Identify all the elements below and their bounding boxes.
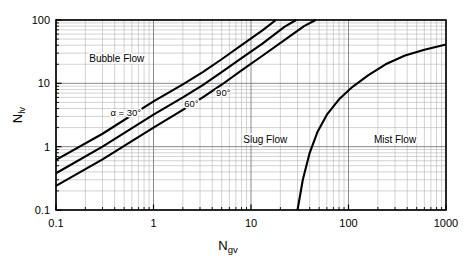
x-tick-label: 100 (339, 217, 357, 229)
annotation-angle-90: 90° (216, 87, 231, 98)
annotation-bubble-flow: Bubble Flow (89, 53, 145, 64)
annotation-mist-flow: Mist Flow (374, 134, 417, 145)
x-tick-label: 0.1 (48, 217, 63, 229)
flow-regime-map-chart: 0.111010010000.1110100 Bubble FlowBubble… (0, 0, 469, 259)
y-tick-label: 0.1 (35, 204, 50, 216)
annotation-slug-flow: Slug Flow (243, 134, 288, 145)
y-tick-label: 10 (38, 77, 50, 89)
y-tick-label: 100 (32, 14, 50, 26)
annotation-angle-30: α = 30° (110, 107, 141, 118)
chart-figure: 0.111010010000.1110100 Bubble FlowBubble… (0, 0, 469, 259)
x-tick-label: 1 (150, 217, 156, 229)
x-tick-label: 10 (245, 217, 257, 229)
annotation-angle-60: 60° (184, 98, 199, 109)
x-tick-label: 1000 (434, 217, 458, 229)
y-tick-label: 1 (44, 141, 50, 153)
